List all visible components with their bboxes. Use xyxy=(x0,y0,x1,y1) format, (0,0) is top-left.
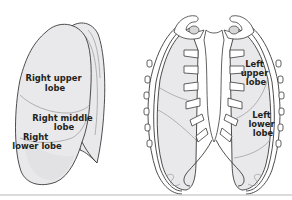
chest-illustration: Left upper lobe Left lower lobe xyxy=(144,16,284,194)
clavicle-right xyxy=(224,16,254,39)
first-rib-joint-left xyxy=(189,26,199,34)
label-left-lower-lobe: Left lower lobe xyxy=(248,110,277,138)
lung-lobes-diagram: Right upper lobe Right middle lobe Right… xyxy=(0,0,292,200)
right-lung-illustration: Right upper lobe Right middle lobe Right… xyxy=(12,23,104,185)
sternum xyxy=(204,30,224,142)
clavicle-left xyxy=(174,16,204,39)
first-rib-joint-right xyxy=(229,26,239,34)
